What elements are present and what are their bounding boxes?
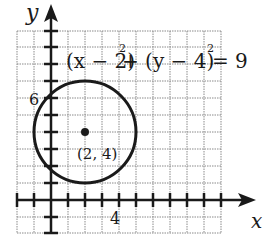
center-point-label: (2, 4): [77, 145, 117, 163]
center-point: [81, 128, 89, 136]
y-tick-label-6: 6: [29, 90, 39, 109]
x-tick-label-4: 4: [110, 209, 120, 228]
circle-graph: y x 6 4 (2, 4) (x − 2) 2 + (y − 4) 2 = 9: [0, 0, 271, 244]
equation-term-y: + (y − 4): [122, 49, 214, 73]
x-axis: [17, 193, 256, 207]
x-axis-label: x: [251, 209, 262, 233]
y-axis: [44, 4, 58, 233]
y-axis-label: y: [25, 0, 39, 25]
equation-rhs: = 9: [212, 49, 248, 73]
